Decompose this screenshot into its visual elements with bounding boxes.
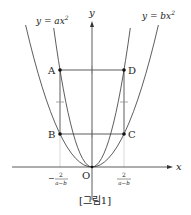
label-D: D [128,65,136,76]
label-B: B [48,129,55,140]
figure-caption: [그림1] [79,195,111,206]
svg-text:a−b: a−b [118,180,130,186]
point-A [58,68,62,72]
point-B [58,132,62,136]
label-A: A [47,65,56,76]
diagram-canvas: A B C D O y x y = ax2 y = bx2 − 2 a−b 2 … [0,0,191,215]
label-y-axis: y [88,7,95,18]
x-tick-left: − 2 a−b [48,171,68,186]
label-origin: O [82,170,90,181]
label-curve-bx2: y = bx2 [141,9,175,21]
label-curve-ax2: y = ax2 [35,14,69,26]
svg-text:2: 2 [59,171,63,178]
label-C: C [128,129,136,140]
svg-text:a−b: a−b [55,180,67,186]
point-C [122,132,126,136]
point-O [91,166,93,168]
x-tick-right: 2 a−b [117,171,131,186]
label-x-axis: x [176,161,182,172]
x-axis-arrow-icon [167,165,173,169]
y-axis-arrow-icon [90,21,94,27]
point-D [122,68,126,72]
svg-text:−: − [48,174,55,183]
svg-text:2: 2 [122,171,126,178]
